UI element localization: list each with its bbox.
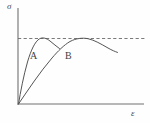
curve-b-label: B [65,51,72,61]
curve-a-label: A [30,51,37,61]
curve-b-path [19,38,118,104]
epsilon-axis-label: ε [131,109,135,118]
plot-canvas [0,0,150,123]
stress-strain-figure: σ ε A B [0,0,150,123]
sigma-axis-label: σ [7,2,11,11]
